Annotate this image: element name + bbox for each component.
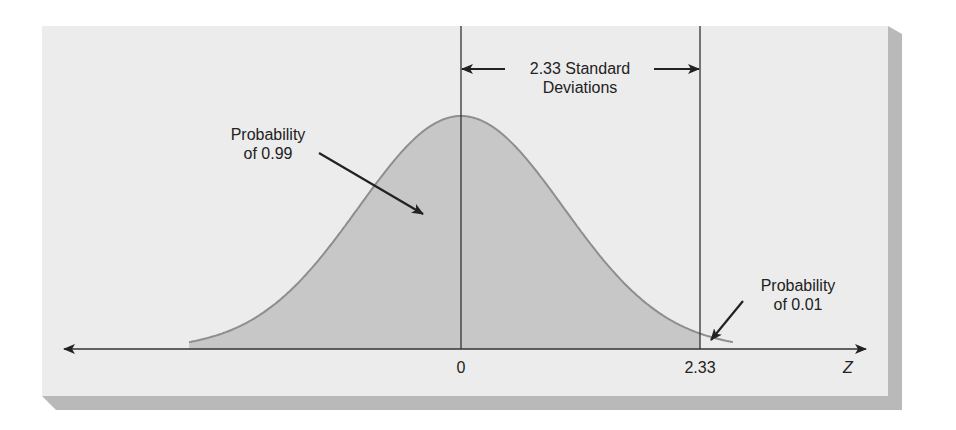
probability-0-01-label: Probability of 0.01 bbox=[748, 276, 848, 314]
z-axis-label: Z bbox=[838, 358, 858, 377]
sd-span-label-line1: 2.33 Standard bbox=[509, 59, 651, 78]
probability-0-01-line1: Probability bbox=[748, 276, 848, 295]
sd-span-label-line2: Deviations bbox=[509, 78, 651, 97]
probability-0-99-line1: Probability bbox=[218, 125, 318, 144]
probability-0-01-line2: of 0.01 bbox=[748, 295, 848, 314]
sd-span-label: 2.33 Standard Deviations bbox=[509, 59, 651, 97]
probability-0-99-label: Probability of 0.99 bbox=[218, 125, 318, 163]
tick-label-0: 0 bbox=[441, 358, 481, 377]
tick-label-2-33: 2.33 bbox=[675, 358, 725, 377]
probability-0-99-line2: of 0.99 bbox=[218, 144, 318, 163]
normal-distribution-figure: 2.33 Standard Deviations Probability of … bbox=[0, 0, 956, 430]
